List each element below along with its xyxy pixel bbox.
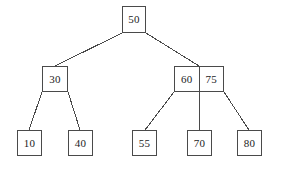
tree-node-leaf-70[interactable]: 70 — [187, 130, 212, 156]
tree-edge — [55, 33, 122, 66]
tree-node-internal-right[interactable]: 6075 — [174, 66, 224, 92]
node-key-cell: 60 — [175, 67, 199, 91]
tree-node-root[interactable]: 50 — [122, 6, 146, 33]
node-key-cell: 30 — [43, 67, 67, 91]
node-key-cell: 40 — [69, 131, 92, 155]
tree-edge — [68, 92, 80, 130]
tree-diagram-canvas: 503060751040557080 — [0, 0, 282, 169]
node-key-cell: 55 — [133, 131, 156, 155]
node-key-cell: 75 — [199, 67, 224, 91]
node-key-cell: 70 — [188, 131, 211, 155]
tree-node-internal-left[interactable]: 30 — [42, 66, 68, 92]
tree-edge — [224, 92, 249, 130]
node-key-cell: 50 — [123, 7, 145, 32]
tree-node-leaf-80[interactable]: 80 — [237, 130, 262, 156]
tree-node-leaf-55[interactable]: 55 — [132, 130, 157, 156]
tree-node-leaf-10[interactable]: 10 — [17, 130, 42, 156]
tree-node-leaf-40[interactable]: 40 — [68, 130, 93, 156]
tree-edge — [146, 33, 199, 66]
node-key-cell: 80 — [238, 131, 261, 155]
tree-edge — [29, 92, 42, 130]
tree-edge — [145, 92, 174, 130]
node-key-cell: 10 — [18, 131, 41, 155]
